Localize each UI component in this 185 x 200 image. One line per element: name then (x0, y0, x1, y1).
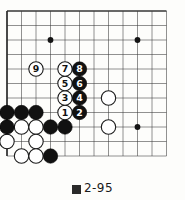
svg-text:6: 6 (76, 78, 83, 89)
svg-text:8: 8 (76, 63, 83, 74)
figure-caption-text: 2-95 (84, 181, 113, 195)
go-board-svg: 123456789 (0, 0, 185, 176)
svg-text:4: 4 (76, 92, 83, 103)
go-diagram-figure: 123456789 2-95 (0, 0, 185, 200)
svg-text:1: 1 (62, 107, 69, 118)
figure-caption: 2-95 (0, 176, 185, 200)
svg-text:9: 9 (33, 63, 40, 74)
go-board: 123456789 (0, 0, 185, 176)
svg-text:3: 3 (62, 92, 69, 103)
svg-text:2: 2 (76, 107, 83, 118)
svg-text:7: 7 (62, 63, 69, 74)
svg-text:5: 5 (62, 78, 69, 89)
figure-char-icon (72, 185, 81, 194)
